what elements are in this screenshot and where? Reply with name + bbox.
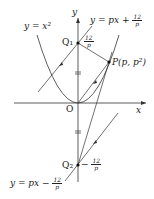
q2-label: Q₂ (62, 161, 73, 170)
point-q2 (76, 163, 79, 166)
lower-line-equation: y = px − 12p (10, 177, 62, 190)
q2-value: − 12p (81, 158, 101, 171)
fraction: 12p (84, 35, 94, 48)
origin-label: O (66, 105, 73, 114)
point-p (107, 60, 110, 63)
q1-label: Q₁ (62, 38, 73, 47)
frac-den: p (87, 42, 91, 48)
lower-line-text: y = px − (10, 178, 50, 188)
fraction: 12p (91, 158, 101, 171)
diagram: y x O y = x² y = px + 12p Q₁ 12p P(p, p²… (0, 0, 154, 199)
minus-sign: − (81, 159, 89, 169)
upper-line-text: y = px + (90, 15, 130, 25)
frac-den: p (55, 184, 59, 190)
q1-value: 12p (84, 35, 94, 48)
y-axis-label: y (72, 8, 77, 17)
point-p-label: P(p, p²) (112, 58, 146, 67)
point-q1 (76, 41, 79, 44)
tangent-line (78, 52, 112, 165)
fraction: 12p (132, 14, 142, 27)
x-axis-arrow-icon (141, 101, 146, 105)
segment-op (78, 62, 109, 103)
upper-line-equation: y = px + 12p (90, 14, 142, 27)
y-axis-arrow-icon (76, 18, 80, 23)
frac-den: p (135, 21, 139, 27)
fraction: 12p (52, 177, 62, 190)
parabola-label: y = x² (24, 22, 51, 31)
frac-den: p (94, 165, 98, 171)
x-axis-label: x (136, 106, 141, 115)
